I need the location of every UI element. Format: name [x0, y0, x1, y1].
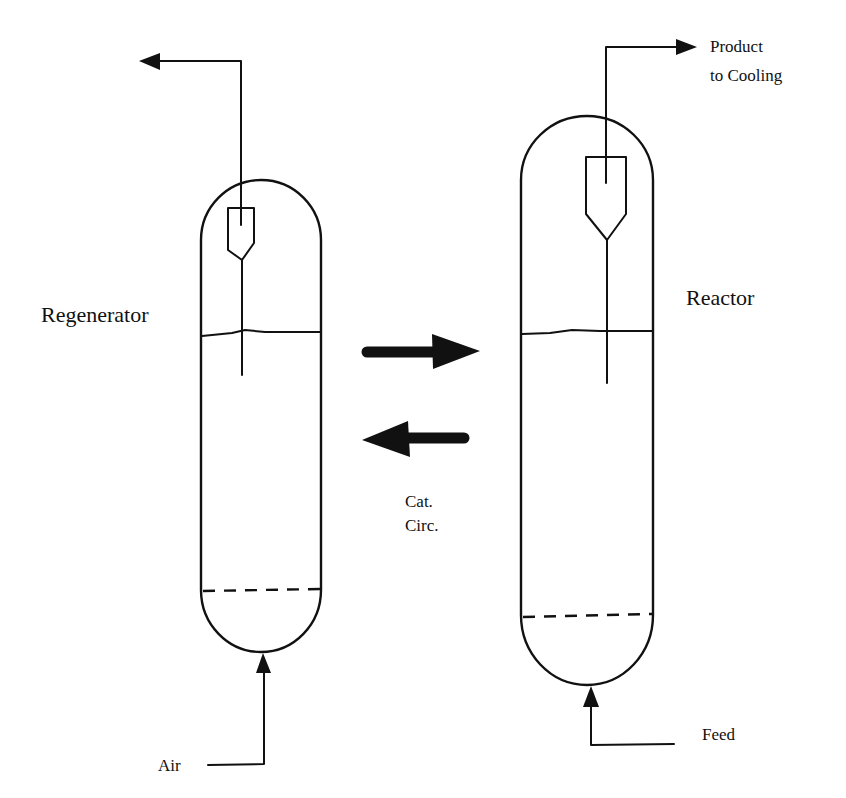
regenerator-bed-level [202, 330, 320, 336]
catalyst-to-reactor-arrow [367, 334, 480, 369]
air-inlet [208, 653, 271, 765]
reactor-bed-level [522, 330, 653, 334]
product-arrowhead-icon [676, 39, 697, 55]
arrow-right-icon [432, 334, 480, 369]
cat-circ-label-line1: Cat. [405, 492, 433, 511]
regenerator-label: Regenerator [41, 302, 149, 327]
reactor-vessel [521, 39, 697, 685]
process-flow-diagram: Regenerator Reactor Product to Cooling C… [0, 0, 846, 798]
product-label-line1: Product [710, 37, 763, 56]
reactor-label: Reactor [686, 285, 755, 310]
regenerator-distributor-grid [203, 589, 320, 591]
feed-arrowhead-icon [583, 686, 599, 707]
feed-label: Feed [702, 725, 736, 744]
feed-inlet-line [591, 706, 674, 745]
air-arrowhead-icon [256, 653, 271, 673]
air-label: Air [158, 756, 181, 775]
cat-circ-label-line2: Circ. [405, 516, 439, 535]
reactor-distributor-grid [523, 614, 652, 617]
arrow-left-icon [362, 421, 410, 457]
product-outlet-line [606, 47, 676, 183]
regenerator-vessel [139, 53, 321, 652]
product-label-line2: to Cooling [710, 66, 783, 85]
regenerator-shell [201, 180, 321, 652]
air-inlet-line [208, 668, 264, 765]
feed-inlet [583, 686, 674, 745]
flue-gas-outlet-line [160, 61, 241, 225]
flue-gas-arrowhead-icon [139, 53, 160, 70]
catalyst-to-regenerator-arrow [362, 421, 464, 457]
